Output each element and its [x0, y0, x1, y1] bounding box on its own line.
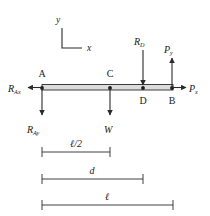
point-label-c: C [107, 68, 114, 79]
dimension-distance-d: d [42, 165, 143, 184]
force-arrow-rd: RD [133, 36, 145, 85]
force-label-px: Px [188, 83, 198, 95]
force-arrow-ray: RAy [26, 88, 42, 136]
force-arrow-px: Px [172, 83, 198, 95]
force-label-rax: RAx [7, 83, 21, 95]
beam [42, 85, 173, 91]
force-arrow-py: Py [163, 44, 173, 86]
force-label-py: Py [163, 44, 173, 56]
dimension-label-length: ℓ [105, 191, 109, 202]
node-point-d [141, 86, 145, 90]
dimension-label-distance-d: d [90, 165, 96, 176]
dimension-half-length: ℓ/2 [42, 138, 110, 157]
axis-label-x: x [86, 43, 92, 53]
beam-free-body-diagram: y x A C D B RAx RAy W [0, 0, 210, 216]
coordinate-axes-indicator: y x [55, 15, 92, 53]
axis-label-y: y [55, 15, 61, 25]
force-label-ray: RAy [26, 124, 40, 136]
force-label-rd: RD [133, 36, 145, 48]
point-label-a: A [38, 68, 46, 79]
point-label-d: D [139, 95, 146, 106]
force-arrow-rax: RAx [7, 83, 42, 95]
force-arrow-w: W [104, 88, 114, 135]
dimension-label-half-length: ℓ/2 [70, 138, 82, 149]
point-label-b: B [169, 95, 176, 106]
force-label-w: W [104, 124, 114, 135]
dimension-length: ℓ [42, 191, 173, 210]
